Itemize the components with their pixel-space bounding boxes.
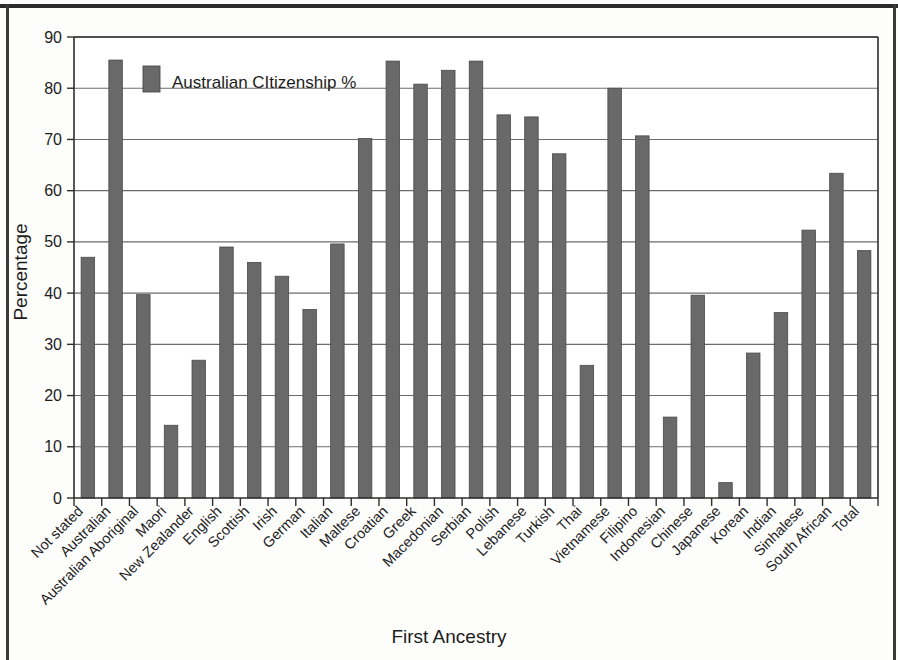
y-tick-label-50: 50 bbox=[44, 233, 62, 250]
bar-australian-aboriginal bbox=[137, 295, 151, 498]
bar-serbian bbox=[469, 61, 483, 498]
x-axis-ticks bbox=[74, 498, 878, 506]
bar-german bbox=[303, 310, 317, 499]
bar-vietnamese bbox=[608, 88, 622, 498]
bar-croatian bbox=[386, 61, 400, 498]
y-tick-label-70: 70 bbox=[44, 131, 62, 148]
bar-maltese bbox=[358, 138, 372, 498]
bar-thai bbox=[580, 365, 594, 498]
bar-not-stated bbox=[81, 257, 95, 498]
chart-svg: 0102030405060708090 Not statedAustralian… bbox=[0, 0, 898, 660]
y-tick-label-90: 90 bbox=[44, 29, 62, 46]
bar-korean bbox=[746, 353, 760, 498]
bar-total bbox=[857, 251, 871, 498]
bar-indian bbox=[774, 313, 788, 498]
bar-south-african bbox=[830, 173, 844, 498]
chart-page: 0102030405060708090 Not statedAustralian… bbox=[0, 0, 898, 660]
bar-macedonian bbox=[442, 70, 456, 498]
y-axis-title: Percentage bbox=[10, 223, 31, 320]
bar-greek bbox=[414, 84, 428, 498]
x-axis-title: First Ancestry bbox=[391, 626, 507, 647]
bar-irish bbox=[275, 276, 289, 498]
bar-lebanese bbox=[525, 117, 539, 498]
x-tick-label-total: Total bbox=[829, 503, 862, 536]
bar-scottish bbox=[247, 262, 261, 498]
bar-english bbox=[220, 247, 234, 498]
y-tick-label-30: 30 bbox=[44, 336, 62, 353]
bar-australian bbox=[109, 60, 123, 498]
legend-swatch-icon bbox=[143, 66, 160, 92]
y-tick-label-0: 0 bbox=[53, 490, 62, 507]
y-tick-label-40: 40 bbox=[44, 285, 62, 302]
bar-maori bbox=[164, 425, 178, 498]
y-tick-label-10: 10 bbox=[44, 438, 62, 455]
y-axis-ticks: 0102030405060708090 bbox=[44, 29, 74, 507]
bar-japanese bbox=[719, 483, 733, 498]
bar-new-zealander bbox=[192, 360, 206, 498]
x-axis-tick-labels: Not statedAustralianAustralian Aborigina… bbox=[28, 502, 862, 607]
bar-sinhalese bbox=[802, 230, 816, 498]
bar-indonesian bbox=[663, 417, 677, 498]
bar-italian bbox=[331, 244, 345, 498]
legend-label: Australian CItizenship % bbox=[172, 73, 356, 92]
y-tick-label-60: 60 bbox=[44, 182, 62, 199]
bar-filipino bbox=[636, 136, 650, 498]
bar-chart: 0102030405060708090 Not statedAustralian… bbox=[0, 0, 898, 660]
bar-turkish bbox=[552, 154, 566, 498]
y-tick-label-80: 80 bbox=[44, 80, 62, 97]
bar-polish bbox=[497, 115, 511, 498]
y-tick-label-20: 20 bbox=[44, 387, 62, 404]
bar-chinese bbox=[691, 295, 705, 498]
